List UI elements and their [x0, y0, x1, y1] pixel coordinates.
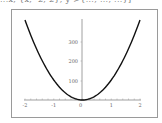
x-tick-label: -1 [51, 102, 56, 108]
parabola-curve [25, 20, 140, 100]
x-tick-label: 2 [138, 102, 141, 108]
y-tick-label: 100 [68, 78, 78, 84]
plot-area: -2-1012 100200300 [0, 0, 162, 123]
y-ticks: 100200300 [68, 39, 82, 84]
y-tick-label: 300 [68, 39, 78, 45]
x-tick-label: 1 [110, 102, 113, 108]
x-tick-label: -2 [23, 102, 28, 108]
x-tick-label: 0 [79, 102, 82, 108]
y-tick-label: 200 [68, 58, 78, 64]
